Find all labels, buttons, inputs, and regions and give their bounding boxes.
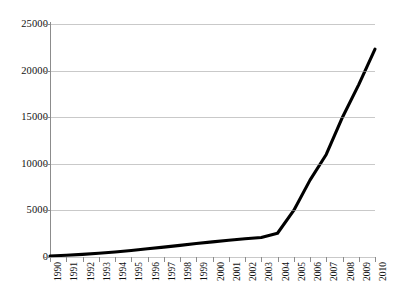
y-axis-tick-label: 25000: [2, 19, 48, 30]
gridline: [50, 164, 375, 165]
x-axis-tick-label: 2000: [217, 262, 227, 302]
x-axis-tick-label: 2002: [249, 262, 259, 302]
y-axis-tick: [44, 117, 51, 118]
y-axis-tick-label: 15000: [2, 112, 48, 123]
x-axis-tick-label: 2001: [233, 262, 243, 302]
x-axis-labels: 1990199119921993199419951996199719981999…: [0, 262, 395, 302]
x-axis-tick-label: 1990: [54, 262, 64, 302]
x-axis-tick-label: 1995: [135, 262, 145, 302]
line-chart: 0500010000150002000025000 19901991199219…: [0, 0, 395, 302]
y-axis-tick: [44, 210, 51, 211]
plot-area: [50, 24, 375, 257]
x-axis-tick-label: 1996: [152, 262, 162, 302]
x-axis-tick-label: 2007: [330, 262, 340, 302]
y-axis-tick: [44, 24, 51, 25]
y-axis-tick: [44, 164, 51, 165]
x-axis-tick-label: 2010: [379, 262, 389, 302]
y-axis-tick-label: 20000: [2, 66, 48, 77]
x-axis-tick-label: 1992: [87, 262, 97, 302]
series-line: [50, 24, 375, 257]
x-axis-tick-label: 2005: [298, 262, 308, 302]
x-axis-tick-label: 2008: [347, 262, 357, 302]
x-axis-tick-label: 1999: [200, 262, 210, 302]
y-axis-tick-label: 5000: [2, 205, 48, 216]
x-axis-tick-label: 1991: [70, 262, 80, 302]
gridline: [50, 24, 375, 25]
y-axis-tick: [44, 257, 51, 258]
y-axis-tick-label: 10000: [2, 159, 48, 170]
x-axis-tick-label: 2003: [265, 262, 275, 302]
y-axis-tick: [44, 71, 51, 72]
x-axis-tick-label: 1994: [119, 262, 129, 302]
x-axis-tick-label: 2009: [363, 262, 373, 302]
x-axis-tick-label: 1997: [168, 262, 178, 302]
x-axis-tick-label: 1993: [103, 262, 113, 302]
gridline: [50, 71, 375, 72]
x-axis-tick-label: 2004: [282, 262, 292, 302]
x-axis-tick-label: 1998: [184, 262, 194, 302]
x-axis-tick-label: 2006: [314, 262, 324, 302]
